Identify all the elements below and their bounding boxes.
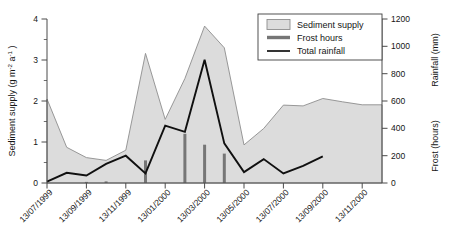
y2-axis-title-rainfall: Rainfall (mm) <box>430 33 440 87</box>
y-tick-label-2: 2 <box>33 96 38 106</box>
right-axis: 0 200 400 600 800 1000 1200 Rainfall (mm… <box>382 14 440 188</box>
x-tick-label-6: 13/07/2000 <box>254 187 291 224</box>
x-axis: 13/07/1999 13/09/1999 13/11/1999 13/01/2… <box>17 183 382 224</box>
x-tick-label-1: 13/09/1999 <box>57 187 94 224</box>
y-tick-label-0: 0 <box>33 178 38 188</box>
y2-tick-label-1200: 1200 <box>391 14 410 24</box>
y-tick-label-4: 4 <box>33 14 38 24</box>
y2-tick-label-600: 600 <box>391 96 405 106</box>
left-axis: 0 1 2 3 4 Sediment supply (g m-2 a-1 ) <box>6 14 48 188</box>
x-tick-label-2: 13/11/1999 <box>96 187 133 224</box>
y-tick-label-1: 1 <box>33 137 38 147</box>
chart-figure: 0 1 2 3 4 Sediment supply (g m-2 a-1 ) 0… <box>0 0 449 242</box>
y2-tick-label-0: 0 <box>391 178 396 188</box>
legend: Sediment supply Frost hours Total rainfa… <box>258 14 382 60</box>
chart-svg: 0 1 2 3 4 Sediment supply (g m-2 a-1 ) 0… <box>0 0 449 242</box>
y2-tick-label-400: 400 <box>391 123 405 133</box>
y2-tick-label-800: 800 <box>391 69 405 79</box>
x-tick-label-4: 13/03/2000 <box>175 187 212 224</box>
legend-label-frost-hours: Frost hours <box>297 33 343 43</box>
y2-tick-label-200: 200 <box>391 151 405 161</box>
x-tick-label-8: 13/11/2000 <box>333 187 370 224</box>
x-tick-label-3: 13/01/2000 <box>135 187 172 224</box>
y-axis-title: Sediment supply (g m-2 a-1 ) <box>6 45 18 156</box>
legend-label-total-rainfall: Total rainfall <box>297 46 345 56</box>
legend-label-sediment-supply: Sediment supply <box>297 20 364 30</box>
y2-axis-title-frost: Frost (hours) <box>430 120 440 172</box>
x-tick-label-5: 13/05/2000 <box>214 187 251 224</box>
y2-tick-label-1000: 1000 <box>391 41 410 51</box>
x-tick-label-7: 13/09/2000 <box>293 187 330 224</box>
y-tick-label-3: 3 <box>33 55 38 65</box>
x-tick-label-0: 13/07/1999 <box>17 187 54 224</box>
legend-marker-sediment-supply <box>267 20 290 30</box>
